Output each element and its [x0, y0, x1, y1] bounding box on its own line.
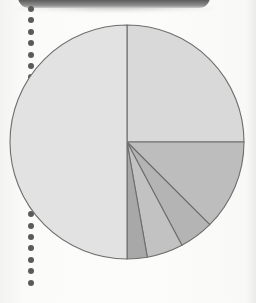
pie-chart[interactable] [0, 0, 256, 303]
pie-slice-group [10, 25, 244, 259]
page-right-edge-shading [246, 0, 256, 303]
page-root [0, 0, 256, 303]
pie-slice[interactable] [127, 25, 244, 142]
pie-slice[interactable] [10, 25, 127, 259]
pie-chart-svg [0, 0, 256, 303]
